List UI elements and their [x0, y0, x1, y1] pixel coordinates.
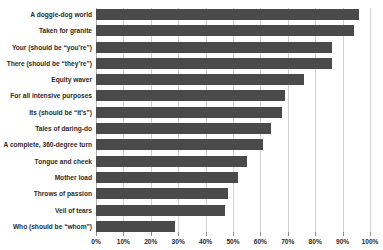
- bar-row[interactable]: [96, 156, 370, 167]
- category-label: Its (should be “it’s”): [0, 107, 92, 118]
- x-tick: [96, 232, 97, 236]
- x-axis-ticks: [96, 232, 370, 236]
- bar-row[interactable]: [96, 42, 370, 53]
- x-tick-label: 80%: [309, 237, 322, 246]
- x-tick: [315, 232, 316, 236]
- bar-row[interactable]: [96, 25, 370, 36]
- category-label: For all intensive purposes: [0, 90, 92, 101]
- bar[interactable]: [96, 107, 282, 118]
- bar[interactable]: [96, 139, 263, 150]
- x-tick: [123, 232, 124, 236]
- bar-row[interactable]: [96, 90, 370, 101]
- bar[interactable]: [96, 58, 332, 69]
- x-tick-label: 20%: [144, 237, 157, 246]
- category-label: Tales of daring-do: [0, 123, 92, 134]
- bar-series: [96, 8, 370, 232]
- category-label: Your (should be “you’re”): [0, 42, 92, 53]
- category-label: Taken for granite: [0, 25, 92, 36]
- x-tick: [370, 232, 371, 236]
- x-tick: [288, 232, 289, 236]
- plot-area: [96, 8, 370, 232]
- bar-row[interactable]: [96, 9, 370, 20]
- bar[interactable]: [96, 74, 304, 85]
- bar-row[interactable]: [96, 172, 370, 183]
- x-tick: [206, 232, 207, 236]
- x-tick: [233, 232, 234, 236]
- bar-row[interactable]: [96, 188, 370, 199]
- bar[interactable]: [96, 90, 285, 101]
- bar[interactable]: [96, 156, 247, 167]
- bar-row[interactable]: [96, 58, 370, 69]
- bar-row[interactable]: [96, 221, 370, 232]
- category-label: Equity waver: [0, 74, 92, 85]
- bar[interactable]: [96, 9, 359, 20]
- bar[interactable]: [96, 25, 354, 36]
- x-tick: [178, 232, 179, 236]
- category-label: A complete, 360-degree turn: [0, 139, 92, 150]
- bar-row[interactable]: [96, 139, 370, 150]
- category-label: There (should be “they’re”): [0, 58, 92, 69]
- bar-chart: A doggie-dog worldTaken for graniteYour …: [0, 0, 383, 250]
- x-tick-label: 10%: [117, 237, 130, 246]
- x-tick-label: 30%: [172, 237, 185, 246]
- bar[interactable]: [96, 42, 332, 53]
- bar-row[interactable]: [96, 205, 370, 216]
- x-tick-label: 40%: [199, 237, 212, 246]
- bar[interactable]: [96, 221, 175, 232]
- x-tick-label: 0%: [91, 237, 101, 246]
- category-label: Mother load: [0, 172, 92, 183]
- category-label: Throws of passion: [0, 188, 92, 199]
- bar[interactable]: [96, 172, 238, 183]
- x-axis-labels: 0%10%20%30%40%50%60%70%80%90%100%: [96, 237, 370, 247]
- x-tick-label: 100%: [362, 237, 379, 246]
- category-label: A doggie-dog world: [0, 9, 92, 20]
- category-label: Veil of tears: [0, 205, 92, 216]
- category-label: Who (should be “whom”): [0, 221, 92, 232]
- bar[interactable]: [96, 188, 228, 199]
- x-tick-label: 90%: [336, 237, 349, 246]
- x-tick: [343, 232, 344, 236]
- bar-row[interactable]: [96, 123, 370, 134]
- category-label: Tongue and cheek: [0, 156, 92, 167]
- bar[interactable]: [96, 123, 271, 134]
- gridline-100%: [370, 8, 371, 232]
- bar-row[interactable]: [96, 74, 370, 85]
- bar[interactable]: [96, 205, 225, 216]
- bar-row[interactable]: [96, 107, 370, 118]
- x-tick-label: 50%: [226, 237, 239, 246]
- category-axis-labels: A doggie-dog worldTaken for graniteYour …: [0, 8, 92, 232]
- x-tick: [260, 232, 261, 236]
- x-tick-label: 60%: [254, 237, 267, 246]
- x-tick: [151, 232, 152, 236]
- x-tick-label: 70%: [281, 237, 294, 246]
